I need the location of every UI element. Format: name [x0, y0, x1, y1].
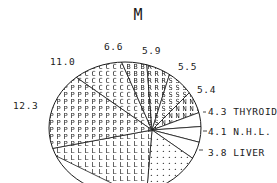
pie-label-5-5: 5.5: [178, 61, 197, 72]
pie-label-thyroid: 4.3 THYROID: [208, 106, 277, 117]
pie-label-nhl: 4.1 N.H.L.: [208, 126, 271, 137]
pie-label-12-3: 12.3: [13, 100, 38, 111]
pie-label-11-0: 11.0: [50, 56, 75, 67]
pie-chart-figure: M P C B R S: [0, 0, 277, 183]
pie-label-6-6: 6.6: [104, 41, 123, 52]
pie-label-liver: 3.8 LIVER: [208, 147, 265, 158]
pie-label-5-4: 5.4: [197, 84, 216, 95]
pie-label-5-9: 5.9: [142, 45, 161, 56]
